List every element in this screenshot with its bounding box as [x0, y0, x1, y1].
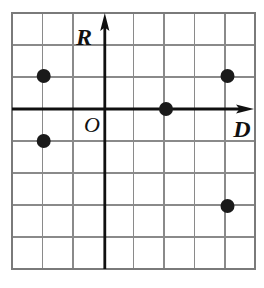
data-point: [221, 69, 235, 83]
origin-label: O: [84, 112, 100, 137]
data-point: [221, 199, 235, 213]
coordinate-plane-svg: R D O: [0, 0, 264, 288]
x-axis-label: D: [232, 116, 250, 142]
data-point: [37, 69, 51, 83]
coordinate-plane-figure: R D O: [0, 0, 264, 288]
y-axis-label: R: [75, 24, 92, 50]
data-point: [159, 102, 173, 116]
data-point: [37, 134, 51, 148]
